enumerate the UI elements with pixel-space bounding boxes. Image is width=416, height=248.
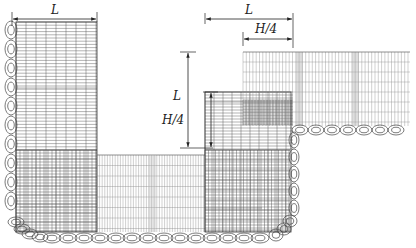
dimension-top-right-step-width: H/4: [243, 22, 292, 46]
dimension-label: H/4: [254, 22, 277, 36]
bottom-strip-mesh: [97, 155, 205, 232]
dimension-top-right-width: L: [205, 3, 293, 48]
dimension-middle-step-height: H/4: [161, 92, 218, 147]
dimension-label: H/4: [161, 113, 184, 127]
boundary-scallop-elements: [5, 21, 404, 243]
dimension-label: L: [244, 3, 253, 17]
dimension-middle-height: L: [172, 52, 213, 148]
middle-column-mesh: [205, 92, 293, 232]
left-column-mesh: [16, 22, 97, 232]
dimension-top-left-width: L: [12, 3, 97, 26]
dimension-label: L: [172, 89, 181, 103]
dimension-label: L: [50, 3, 59, 17]
mesh-diagram: L L H/4 L H/4: [0, 0, 416, 248]
